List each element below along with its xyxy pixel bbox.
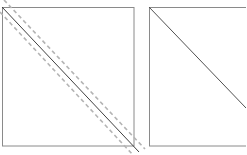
left-dashed-line-upper	[4, 0, 145, 149]
right-square-frame	[150, 8, 247, 147]
right-square-figure	[149, 7, 246, 146]
left-dashed-line-lower	[0, 12, 133, 155]
right-solid-diagonal	[149, 7, 246, 108]
left-solid-diagonal	[2, 7, 139, 152]
left-square-figure	[0, 0, 145, 155]
diagram-canvas	[0, 0, 246, 155]
